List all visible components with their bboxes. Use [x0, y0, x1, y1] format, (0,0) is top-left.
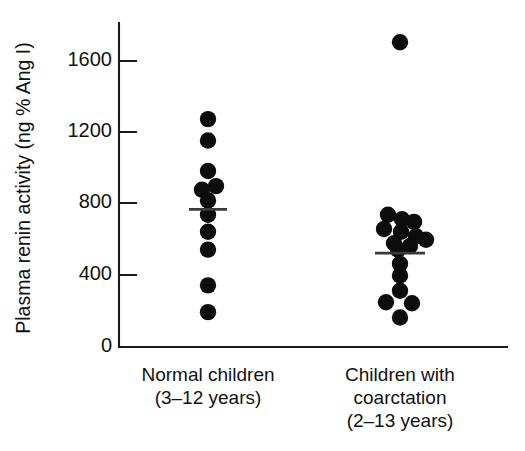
data-point — [200, 277, 216, 293]
data-point — [200, 241, 216, 257]
y-axis-ticks — [119, 61, 137, 275]
category-label-coarctation-line1: Children with — [345, 364, 455, 385]
category-label-normal-line2: (3–12 years) — [155, 387, 262, 408]
data-point — [208, 178, 224, 194]
data-point — [392, 309, 408, 325]
tick-label-400: 400 — [79, 262, 112, 284]
data-point — [200, 111, 216, 127]
tick-label-1600: 1600 — [68, 48, 113, 70]
data-point — [378, 294, 394, 310]
data-points-coarctation — [376, 34, 434, 326]
tick-label-800: 800 — [79, 190, 112, 212]
data-point — [418, 232, 434, 248]
data-point — [392, 282, 408, 298]
x-axis-category-labels: Normal children (3–12 years) Children wi… — [141, 364, 454, 431]
category-label-normal-line1: Normal children — [141, 364, 274, 385]
scatter-dot-plot: Plasma renin activity (ng % Ang I) 1600 … — [0, 0, 525, 451]
data-point — [390, 241, 406, 257]
data-point — [392, 267, 408, 283]
tick-label-1200: 1200 — [68, 119, 113, 141]
category-label-coarctation-line2: coarctation — [354, 387, 447, 408]
y-axis-tick-labels: 1600 1200 800 400 0 — [68, 48, 113, 356]
data-point — [200, 132, 216, 148]
data-point — [380, 207, 396, 223]
data-point — [376, 221, 392, 237]
data-point — [200, 304, 216, 320]
data-point — [200, 163, 216, 179]
data-points-normal-children — [194, 111, 224, 320]
y-axis-title: Plasma renin activity (ng % Ang I) — [12, 42, 34, 334]
data-point — [200, 224, 216, 240]
category-label-coarctation-line3: (2–13 years) — [347, 410, 454, 431]
data-point — [406, 214, 422, 230]
data-point — [200, 192, 216, 208]
data-point — [404, 295, 420, 311]
data-point — [392, 34, 408, 50]
tick-label-0: 0 — [101, 334, 112, 356]
